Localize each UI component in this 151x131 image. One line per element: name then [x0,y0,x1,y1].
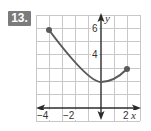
x-tick-neg2: −2 [63,110,75,121]
x-tick-neg4: −4 [37,110,49,121]
x-axis-label: x [130,109,136,121]
graph: 6 4 y −4 −2 2 x [0,0,151,131]
endpoint-right [124,66,130,72]
y-axis-label: y [104,12,110,24]
y-tick-4: 4 [92,49,98,60]
y-tick-6: 6 [92,23,98,34]
endpoint-left [46,27,52,33]
x-tick-2: 2 [123,110,129,121]
